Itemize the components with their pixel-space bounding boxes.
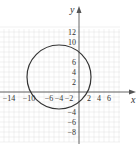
x-tick-label: 4 <box>97 94 101 103</box>
y-tick-label: 12 <box>68 28 76 37</box>
y-tick-label: −8 <box>67 128 76 137</box>
y-tick-label: 4 <box>72 68 76 77</box>
grid-lines <box>0 27 120 142</box>
y-tick-label: 10 <box>68 38 76 47</box>
y-tick-label: −6 <box>67 118 76 127</box>
coordinate-plane: −14−10−6−4−22461210642−4−6−8 x y <box>0 0 140 147</box>
x-tick-label: −4 <box>55 94 64 103</box>
y-tick-label: 2 <box>72 78 76 87</box>
y-tick-label: 6 <box>72 58 76 67</box>
x-axis-label: x <box>130 94 136 105</box>
x-tick-label: −14 <box>3 94 16 103</box>
y-axis-label: y <box>69 4 75 15</box>
y-axis-arrow-icon <box>77 6 82 13</box>
y-tick-label: −4 <box>67 108 76 117</box>
x-tick-label: 6 <box>107 94 111 103</box>
x-tick-label: −6 <box>45 94 54 103</box>
x-tick-label: −2 <box>65 94 74 103</box>
x-tick-label: 2 <box>87 94 91 103</box>
